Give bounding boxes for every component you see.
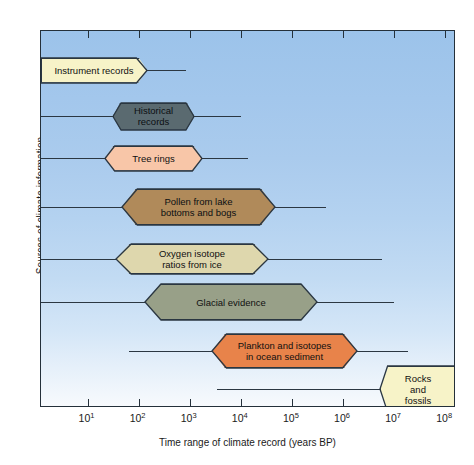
x-axis-tick-bottom-4: [241, 399, 242, 406]
x-axis-tick-top-2: [139, 31, 140, 38]
x-axis-tick-bottom-6: [343, 399, 344, 406]
bar-range-line: [217, 389, 396, 390]
x-axis-tick-bottom-2: [139, 399, 140, 406]
x-axis-tick-top-5: [292, 31, 293, 38]
x-axis-tick-bottom-3: [190, 399, 191, 406]
bar-glacial-evidence: Glacial evidence: [145, 284, 317, 320]
bar-tree-rings: Tree rings: [105, 146, 202, 171]
x-tick-label-7: 107: [385, 412, 401, 424]
x-axis-tick-top-7: [394, 31, 395, 38]
bar-rocks-and-fossils: Rocks and fossils: [380, 366, 455, 407]
x-tick-label-4: 104: [232, 412, 248, 424]
x-tick-label-8: 108: [436, 412, 452, 424]
x-axis-tick-top-1: [88, 31, 89, 38]
x-axis-tick-top-6: [343, 31, 344, 38]
x-axis-tick-top-8: [445, 31, 446, 38]
x-axis-tick-bottom-1: [88, 399, 89, 406]
x-axis-tick-top-4: [241, 31, 242, 38]
bar-instrument-records: Instrument records: [41, 58, 147, 83]
x-tick-label-1: 101: [79, 412, 95, 424]
x-tick-label-6: 106: [334, 412, 350, 424]
x-axis-tick-top-3: [190, 31, 191, 38]
bar-plankton-and-isotopes-in-ocean-sediment: Plankton and isotopes in ocean sediment: [212, 334, 357, 368]
x-tick-label-5: 105: [283, 412, 299, 424]
x-axis-tick-bottom-5: [292, 399, 293, 406]
bar-historical-records: Historical records: [113, 103, 194, 130]
bar-pollen-from-lake-bottoms-and-bogs: Pollen from lake bottoms and bogs: [122, 189, 275, 225]
x-tick-label-2: 102: [130, 412, 146, 424]
bar-oxygen-isotope-ratios-from-ice: Oxygen isotope ratios from ice: [116, 244, 268, 274]
plot-area: Instrument recordsHistorical recordsTree…: [40, 30, 455, 407]
climate-record-timeline-chart: Sources of climate information Instrumen…: [0, 0, 474, 465]
x-tick-label-3: 103: [181, 412, 197, 424]
x-axis-title: Time range of climate record (years BP): [40, 437, 455, 448]
